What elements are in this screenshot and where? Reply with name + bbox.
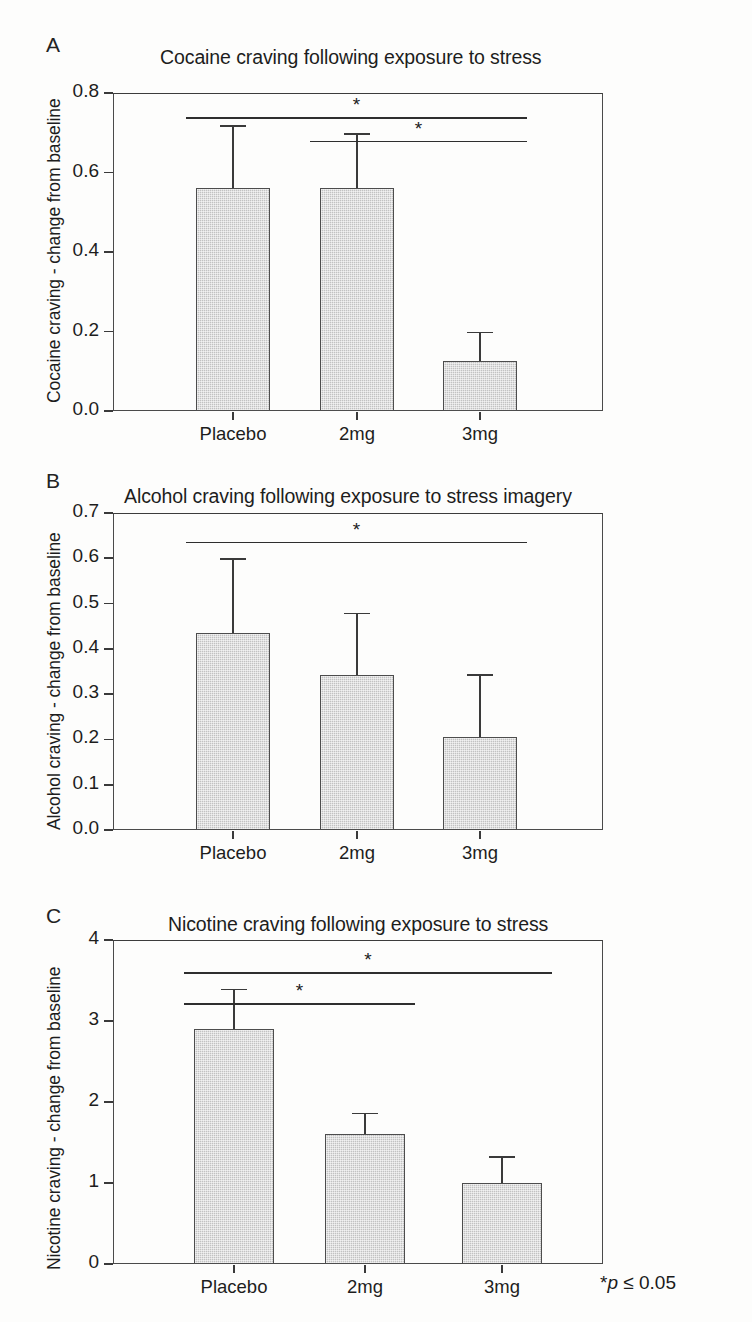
error-bar-stem xyxy=(501,1156,503,1183)
x-tick-mark xyxy=(479,412,481,420)
significance-line xyxy=(184,972,552,974)
y-tick-mark xyxy=(104,939,113,941)
error-bar-cap xyxy=(221,989,247,991)
x-tick-label-2mg: 2mg xyxy=(295,1276,435,1298)
x-tick-mark xyxy=(501,1265,503,1273)
x-tick-mark xyxy=(364,1265,366,1273)
bar-2mg[interactable] xyxy=(320,675,394,830)
bar-3mg[interactable] xyxy=(443,737,517,830)
significance-star: * xyxy=(317,520,397,539)
error-bar-cap xyxy=(489,1156,515,1158)
chart-title-c: Nicotine craving following exposure to s… xyxy=(168,913,548,936)
y-tick-label: 0.3 xyxy=(27,681,99,703)
y-tick-mark xyxy=(104,331,113,333)
y-tick-mark xyxy=(104,251,113,253)
y-tick-mark xyxy=(104,829,113,831)
panel-letter-a: A xyxy=(46,33,60,57)
footnote-threshold: ≤ 0.05 xyxy=(618,1272,676,1293)
x-tick-mark xyxy=(233,1265,235,1273)
x-tick-mark xyxy=(479,831,481,839)
x-tick-label-placebo: Placebo xyxy=(163,842,303,864)
y-tick-label: 4 xyxy=(27,927,99,949)
y-tick-label: 0.2 xyxy=(27,319,99,341)
y-tick-label: 0.0 xyxy=(27,817,99,839)
error-bar-stem xyxy=(356,613,358,675)
footnote-p-italic: p xyxy=(607,1272,618,1293)
error-bar-cap xyxy=(220,125,246,127)
chart-panel-b: B Alcohol craving following exposure to … xyxy=(0,445,752,865)
y-tick-mark xyxy=(104,648,113,650)
y-tick-mark xyxy=(104,1101,113,1103)
x-tick-label-placebo: Placebo xyxy=(164,1276,304,1298)
y-tick-mark xyxy=(104,557,113,559)
y-tick-label: 3 xyxy=(27,1008,99,1030)
error-bar-stem xyxy=(232,125,234,189)
y-tick-label: 0.6 xyxy=(27,160,99,182)
significance-star: * xyxy=(328,950,408,969)
x-tick-mark xyxy=(232,831,234,839)
y-tick-mark xyxy=(104,739,113,741)
figure-page: A Cocaine craving following exposure to … xyxy=(0,0,752,1322)
x-tick-label-placebo: Placebo xyxy=(163,423,303,445)
chart-panel-a: A Cocaine craving following exposure to … xyxy=(0,0,752,445)
x-tick-label-3mg: 3mg xyxy=(410,423,550,445)
y-tick-label: 0.1 xyxy=(27,772,99,794)
error-bar-stem xyxy=(232,558,234,633)
error-bar-cap xyxy=(467,674,493,676)
y-tick-mark xyxy=(104,172,113,174)
y-tick-label: 0.8 xyxy=(27,80,99,102)
bar-placebo[interactable] xyxy=(194,1029,274,1264)
y-tick-mark xyxy=(104,784,113,786)
y-tick-label: 0.0 xyxy=(27,398,99,420)
y-tick-label: 0.5 xyxy=(27,591,99,613)
significance-footnote: *p ≤ 0.05 xyxy=(600,1272,676,1294)
x-tick-mark xyxy=(232,412,234,420)
y-tick-label: 1 xyxy=(27,1170,99,1192)
y-tick-label: 2 xyxy=(27,1089,99,1111)
x-tick-mark xyxy=(356,412,358,420)
significance-line xyxy=(310,141,527,143)
error-bar-cap xyxy=(352,1113,378,1115)
x-tick-mark xyxy=(356,831,358,839)
bar-placebo[interactable] xyxy=(196,633,270,830)
error-bar-cap xyxy=(344,133,370,135)
error-bar-stem xyxy=(364,1113,366,1135)
y-tick-label: 0.4 xyxy=(27,636,99,658)
y-tick-label: 0.7 xyxy=(27,500,99,522)
chart-panel-c: C Nicotine craving following exposure to… xyxy=(0,865,752,1322)
error-bar-cap xyxy=(467,332,493,334)
x-tick-label-3mg: 3mg xyxy=(432,1276,572,1298)
y-tick-label: 0.4 xyxy=(27,239,99,261)
bar-3mg[interactable] xyxy=(443,361,517,411)
significance-line xyxy=(186,117,527,119)
bar-3mg[interactable] xyxy=(462,1183,542,1264)
panel-letter-c: C xyxy=(46,904,61,928)
y-tick-mark xyxy=(104,693,113,695)
y-tick-mark xyxy=(104,603,113,605)
bar-placebo[interactable] xyxy=(196,188,270,411)
significance-star: * xyxy=(317,95,397,114)
y-tick-mark xyxy=(104,92,113,94)
error-bar-cap xyxy=(220,558,246,560)
chart-title-a: Cocaine craving following exposure to st… xyxy=(160,46,541,69)
y-tick-mark xyxy=(104,1020,113,1022)
significance-star: * xyxy=(260,981,340,1000)
y-tick-mark xyxy=(104,1263,113,1265)
error-bar-stem xyxy=(233,989,235,1030)
error-bar-stem xyxy=(479,332,481,362)
significance-line xyxy=(184,1003,415,1005)
y-tick-label: 0.2 xyxy=(27,726,99,748)
x-tick-label-2mg: 2mg xyxy=(287,842,427,864)
panel-letter-b: B xyxy=(46,469,60,493)
significance-line xyxy=(186,542,527,544)
error-bar-stem xyxy=(479,674,481,737)
y-tick-mark xyxy=(104,410,113,412)
bar-2mg[interactable] xyxy=(325,1134,405,1264)
y-tick-label: 0.6 xyxy=(27,545,99,567)
y-tick-mark xyxy=(104,1182,113,1184)
bar-2mg[interactable] xyxy=(320,188,394,411)
y-tick-mark xyxy=(104,512,113,514)
x-tick-label-2mg: 2mg xyxy=(287,423,427,445)
error-bar-cap xyxy=(344,613,370,615)
significance-star: * xyxy=(379,119,459,138)
